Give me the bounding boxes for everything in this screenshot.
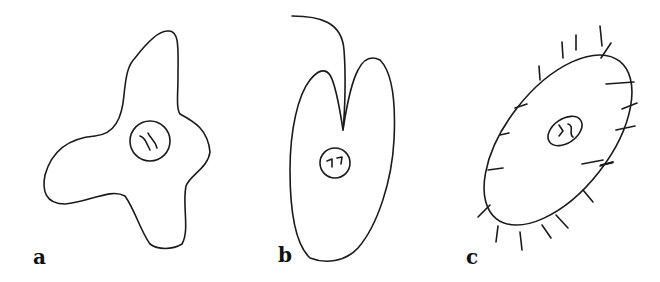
amoeba-nucleus <box>130 121 170 161</box>
ciliate-nucleus <box>543 110 588 151</box>
panel-label-a: a <box>33 247 46 267</box>
amoeba-chromatin <box>140 133 157 150</box>
panel-label-b: b <box>278 245 292 265</box>
panel-a-amoeboid-cell <box>44 31 210 249</box>
amoeba-outline <box>44 31 210 249</box>
ciliate-chromatin <box>559 124 573 137</box>
cell-types-figure: a b c <box>0 0 660 282</box>
panel-c-ciliate-cell <box>455 26 660 251</box>
flagellate-chromatin <box>327 157 342 167</box>
diagram-canvas <box>0 0 660 282</box>
panel-b-flagellate-cell <box>290 16 394 261</box>
flagellate-nucleus <box>320 148 350 178</box>
cilia <box>478 26 637 250</box>
panel-label-c: c <box>466 247 478 267</box>
